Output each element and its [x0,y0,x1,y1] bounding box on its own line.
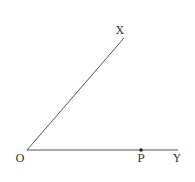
label-x: X [116,24,124,37]
label-p: P [137,152,145,165]
label-y: Y [172,152,181,165]
label-o: O [15,152,24,165]
angle-diagram: X O P Y [0,0,195,182]
ray-ox [27,38,124,150]
